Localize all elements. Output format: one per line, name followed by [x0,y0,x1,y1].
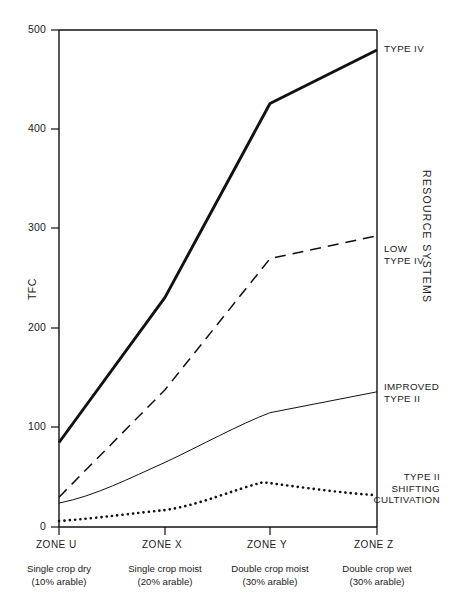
y-tick-label-200: 200 [18,321,46,333]
series-label-type-ii-shifting-cultivation: TYPE II SHIFTING CULTIVATION [334,471,440,506]
chart-figure: 500 400 300 200 100 0 TFC RESOURCE SYSTE… [0,0,451,601]
x-category-desc-zone-z-line2: (30% arable) [312,576,442,589]
axis-frame [59,30,377,527]
series-label-improved-type-ii-line2: TYPE II [384,393,439,405]
x-category-label-zone-z: ZONE Z [354,539,394,550]
series-label-improved-type-ii: IMPROVED TYPE II [384,381,439,404]
series-label-low-type-iv-line1: LOW [384,243,424,255]
y-tick-label-500: 500 [18,23,46,35]
x-category-label-zone-x: ZONE X [142,539,182,550]
x-category-label-zone-u: ZONE U [36,539,77,550]
x-category-desc-zone-z-line1: Double crop wet [312,563,442,576]
y-tick-label-300: 300 [18,221,46,233]
right-axis-title: RESOURCE SYSTEMS [421,170,433,303]
series-label-low-type-iv-line2: TYPE IV [384,255,424,267]
series-label-type-ii-shifting-cultivation-line2: SHIFTING [334,483,440,495]
y-tick-label-400: 400 [18,122,46,134]
x-category-desc-zone-z: Double crop wet (30% arable) [312,563,442,588]
series-label-type-iv: TYPE IV [384,43,424,55]
y-axis-ticks [51,30,59,527]
series-label-type-ii-shifting-cultivation-line1: TYPE II [334,471,440,483]
y-axis-title: TFC [26,278,38,300]
y-tick-label-100: 100 [18,420,46,432]
series-line-improved-type-ii [59,392,377,503]
series-label-improved-type-ii-line1: IMPROVED [384,381,439,393]
series-line-low-type-iv [59,236,377,498]
series-label-type-iv-line1: TYPE IV [384,43,424,55]
x-axis-ticks [59,527,377,535]
y-tick-label-0: 0 [18,520,46,532]
series-label-type-ii-shifting-cultivation-line3: CULTIVATION [334,494,440,506]
chart-plot-area [0,0,451,601]
series-label-low-type-iv: LOW TYPE IV [384,243,424,266]
x-category-label-zone-y: ZONE Y [247,539,287,550]
